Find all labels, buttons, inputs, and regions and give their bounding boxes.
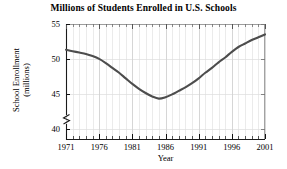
major-vertical-gridlines [67, 24, 266, 139]
data-series-line [66, 34, 265, 98]
x-tick-label: 1996 [223, 142, 240, 152]
major-horizontal-gridlines [66, 25, 265, 130]
x-tick-label: 1986 [157, 142, 174, 152]
y-tick-label: 50 [52, 54, 61, 64]
x-tick-label: 1991 [190, 142, 207, 152]
y-axis-break-icon [64, 115, 70, 125]
x-tick-label: 1971 [58, 142, 75, 152]
x-tick-label: 2001 [257, 142, 274, 152]
x-axis-label: Year [66, 153, 265, 163]
chart-figure: Millions of Students Enrolled in U.S. Sc… [0, 0, 287, 169]
x-axis-major-ticks [67, 24, 266, 139]
y-tick-label: 55 [52, 19, 61, 29]
plot-frame [66, 25, 265, 140]
plot-area: 1971197619811986199119962001 40455055 [0, 0, 287, 169]
x-tick-label: 1981 [124, 142, 141, 152]
y-axis-major-ticks [66, 25, 265, 130]
minor-vertical-gridlines [67, 24, 266, 139]
y-axis-tick-labels: 40455055 [52, 19, 61, 134]
y-tick-label: 40 [52, 124, 61, 134]
x-axis-minor-ticks [67, 24, 266, 139]
y-tick-label: 45 [52, 89, 61, 99]
axis-lines [66, 24, 265, 140]
x-axis-tick-labels: 1971197619811986199119962001 [58, 142, 274, 152]
data-series-group [66, 34, 265, 98]
x-tick-label: 1976 [91, 142, 108, 152]
